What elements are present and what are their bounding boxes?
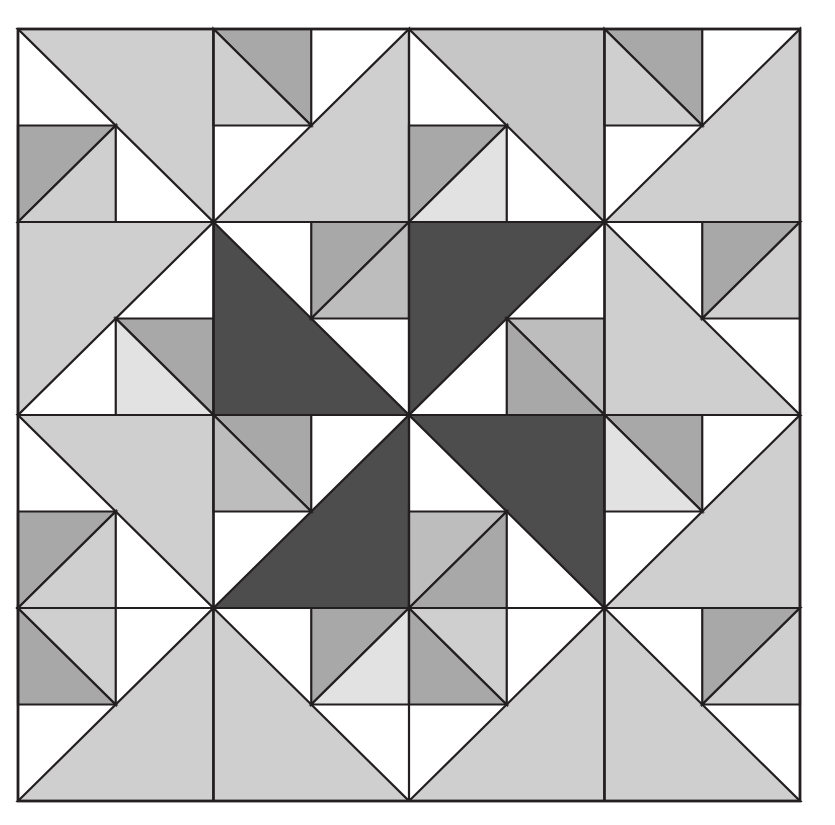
quilt-block-r1-c1 [214,222,410,415]
quilt-block-r2-c3 [605,415,801,608]
quilt-block-r1-c3 [605,222,801,415]
quilt-block-r2-c2 [409,415,605,608]
quilt-block-r0-c2 [409,29,605,222]
quilt-block-r1-c0 [18,222,214,415]
quilt-block-r0-c1 [214,29,410,222]
quilt-block-r0-c0 [18,29,214,222]
quilt-block-r3-c2 [409,608,605,801]
quilt-pattern-canvas [0,0,835,825]
quilt-block-r3-c1 [214,608,410,801]
quilt-block-r2-c0 [18,415,214,608]
quilt-block-r2-c1 [214,415,410,608]
quilt-block-r3-c0 [18,608,214,801]
quilt-block-r3-c3 [605,608,801,801]
quilt-block-r1-c2 [409,222,605,415]
quilt-block-r0-c3 [605,29,801,222]
